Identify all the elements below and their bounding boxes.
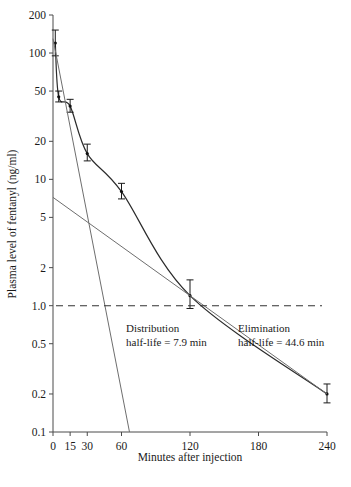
annotation-elimination-line1: Elimination xyxy=(238,322,290,334)
y-tick-label: 10 xyxy=(35,173,47,185)
y-tick-label: 2 xyxy=(40,262,46,274)
x-tick-label: 180 xyxy=(250,440,268,452)
x-tick-label: 15 xyxy=(64,440,76,452)
x-tick-label: 30 xyxy=(82,440,94,452)
annotation-distribution-line2: half-life = 7.9 min xyxy=(126,336,207,348)
data-point-with-error-bar xyxy=(84,144,91,161)
data-point-with-error-bar xyxy=(118,183,125,199)
y-tick-label: 5 xyxy=(40,211,46,223)
elimination-phase-line xyxy=(53,197,327,394)
x-tick-label: 0 xyxy=(50,440,56,452)
x-axis-ticks xyxy=(53,432,327,436)
annotation-distribution-line1: Distribution xyxy=(126,322,180,334)
y-tick-label: 0.5 xyxy=(32,338,47,350)
y-tick-label: 0.1 xyxy=(32,426,47,438)
x-axis-title: Minutes after injection xyxy=(138,451,243,464)
x-tick-label: 60 xyxy=(116,440,128,452)
y-axis-title: Plasma level of fentanyl (ng/ml) xyxy=(6,149,19,298)
data-point-with-error-bar xyxy=(55,91,62,102)
y-tick-label: 1.0 xyxy=(32,300,47,312)
data-series-layer xyxy=(52,30,331,432)
chart-svg: 200100502010521.00.50.20.1 0153060120180… xyxy=(0,0,351,487)
annotation-elimination: Elimination half-life = 44.6 min xyxy=(238,322,325,348)
y-tick-label: 200 xyxy=(29,9,47,21)
data-point-with-error-bar xyxy=(67,99,74,112)
annotation-elimination-line2: half-life = 44.6 min xyxy=(238,336,325,348)
y-axis-tick-labels: 200100502010521.00.50.20.1 xyxy=(29,9,47,438)
y-axis-ticks xyxy=(49,15,53,432)
x-tick-label: 240 xyxy=(318,440,336,452)
pharmacokinetic-chart: 200100502010521.00.50.20.1 0153060120180… xyxy=(0,0,351,487)
annotation-distribution: Distribution half-life = 7.9 min xyxy=(126,322,207,348)
y-tick-label: 0.2 xyxy=(32,388,47,400)
y-tick-label: 50 xyxy=(35,85,47,97)
distribution-phase-line xyxy=(53,39,129,432)
y-tick-label: 100 xyxy=(29,47,47,59)
y-tick-label: 20 xyxy=(35,135,47,147)
